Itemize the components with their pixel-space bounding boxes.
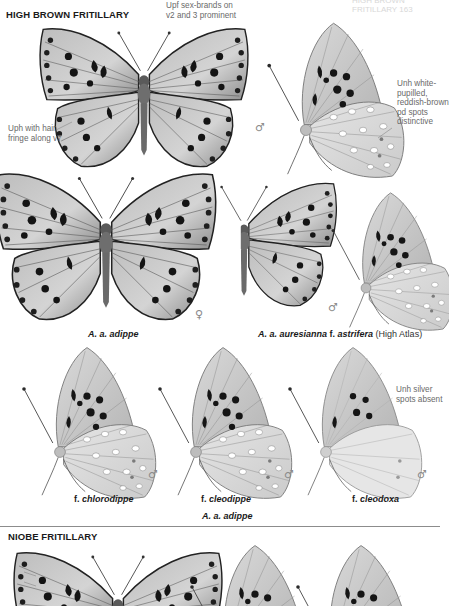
figure-niobe-underside-2 [0, 0, 449, 606]
